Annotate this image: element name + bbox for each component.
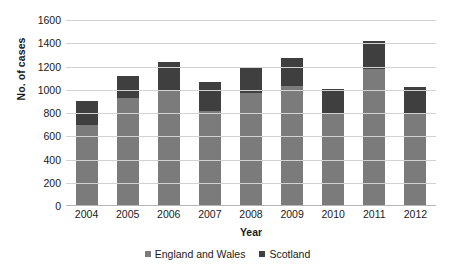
- stacked-bar[interactable]: [404, 87, 426, 206]
- x-axis-tick-label: 2008: [231, 208, 272, 220]
- y-axis-tick-label: 1400: [21, 37, 61, 49]
- gridline: [66, 43, 436, 44]
- gridline: [66, 183, 436, 184]
- stacked-bar[interactable]: [199, 82, 221, 206]
- gridline: [66, 90, 436, 91]
- x-axis-title: Year: [66, 226, 436, 238]
- gridline: [66, 160, 436, 161]
- bar-segment-scotland[interactable]: [281, 58, 303, 85]
- x-axis-tick-label: 2011: [354, 208, 395, 220]
- legend-swatch-icon: [145, 251, 151, 257]
- axis-baseline: [66, 205, 436, 206]
- y-axis-tick-label: 0: [21, 200, 61, 212]
- bar-segment-scotland[interactable]: [322, 89, 344, 113]
- y-axis-tick-label: 1000: [21, 84, 61, 96]
- x-axis-tick-label: 2012: [395, 208, 436, 220]
- bar-segment-scotland[interactable]: [363, 41, 385, 69]
- x-axis-tick-label: 2006: [148, 208, 189, 220]
- gridline: [66, 67, 436, 68]
- legend-label: Scotland: [269, 248, 310, 260]
- x-axis-tick-label: 2004: [66, 208, 107, 220]
- bar-segment-england-and-wales[interactable]: [240, 93, 262, 206]
- x-axis-tick-label: 2005: [107, 208, 148, 220]
- gridline: [66, 20, 436, 21]
- stacked-bar[interactable]: [322, 89, 344, 206]
- bar-segment-scotland[interactable]: [199, 82, 221, 111]
- gridline: [66, 113, 436, 114]
- y-axis-tick-label: 200: [21, 177, 61, 189]
- x-axis-tick-label: 2010: [313, 208, 354, 220]
- bar-segment-england-and-wales[interactable]: [281, 86, 303, 206]
- y-axis-tick-label: 400: [21, 154, 61, 166]
- chart-container: No. of cases 020040060080010001200140016…: [0, 0, 455, 272]
- bar-segment-england-and-wales[interactable]: [117, 98, 139, 206]
- x-axis-tick-label: 2007: [190, 208, 231, 220]
- bar-segment-scotland[interactable]: [117, 76, 139, 98]
- chart-legend: England and WalesScotland: [0, 248, 455, 260]
- y-axis-tick-label: 800: [21, 107, 61, 119]
- stacked-bar[interactable]: [76, 101, 98, 206]
- bar-segment-england-and-wales[interactable]: [158, 90, 180, 206]
- y-axis-tick-label: 600: [21, 130, 61, 142]
- legend-item[interactable]: England and Wales: [145, 248, 246, 260]
- bar-segment-scotland[interactable]: [404, 87, 426, 113]
- legend-item[interactable]: Scotland: [259, 248, 310, 260]
- bar-segment-england-and-wales[interactable]: [199, 111, 221, 206]
- y-axis-tick-label: 1600: [21, 14, 61, 26]
- stacked-bar[interactable]: [158, 62, 180, 206]
- gridline: [66, 136, 436, 137]
- legend-swatch-icon: [259, 251, 265, 257]
- stacked-bar[interactable]: [117, 76, 139, 206]
- legend-label: England and Wales: [155, 248, 246, 260]
- x-axis-tick-labels: 200420052006200720082009201020112012: [66, 208, 436, 220]
- stacked-bar[interactable]: [281, 58, 303, 206]
- y-axis-tick-label: 1200: [21, 61, 61, 73]
- plot-area: 02004006008001000120014001600: [66, 20, 436, 206]
- x-axis-tick-label: 2009: [272, 208, 313, 220]
